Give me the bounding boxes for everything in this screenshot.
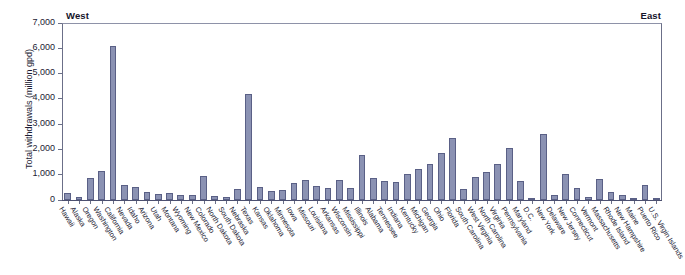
x-axis-tick-mark bbox=[520, 201, 521, 204]
y-axis-tick-label: 1,000 bbox=[32, 168, 55, 178]
annotation-east: East bbox=[641, 10, 661, 21]
x-axis-tick-mark bbox=[249, 201, 250, 204]
x-axis-tick-mark bbox=[396, 201, 397, 204]
x-axis-tick-mark bbox=[362, 201, 363, 204]
bar bbox=[76, 197, 83, 200]
x-axis-tick-mark bbox=[475, 201, 476, 204]
x-axis-tick-mark bbox=[283, 201, 284, 204]
bar bbox=[585, 197, 592, 200]
bar bbox=[144, 192, 151, 200]
x-axis-tick-mark bbox=[305, 201, 306, 204]
bar bbox=[494, 164, 501, 200]
y-axis-tick-label: 7,000 bbox=[32, 17, 55, 27]
bar bbox=[291, 183, 298, 200]
bar bbox=[313, 186, 320, 200]
y-axis-tick-label: 6,000 bbox=[32, 42, 55, 52]
x-axis-tick-mark bbox=[385, 201, 386, 204]
x-axis-tick-mark bbox=[419, 201, 420, 204]
bar bbox=[404, 174, 411, 200]
bar bbox=[381, 181, 388, 200]
bar bbox=[574, 188, 581, 200]
bar bbox=[189, 195, 196, 200]
x-axis-tick-mark bbox=[373, 201, 374, 204]
bar bbox=[302, 180, 309, 200]
bar bbox=[223, 197, 230, 200]
x-axis-tick-mark bbox=[351, 201, 352, 204]
x-axis-tick-mark bbox=[136, 201, 137, 204]
x-axis-tick-mark bbox=[328, 201, 329, 204]
bar bbox=[234, 189, 241, 200]
bar bbox=[211, 196, 218, 200]
bar bbox=[562, 174, 569, 200]
annotation-west: West bbox=[66, 10, 89, 21]
x-axis-tick-mark bbox=[124, 201, 125, 204]
bar bbox=[551, 195, 558, 200]
bar bbox=[370, 178, 377, 201]
bar bbox=[608, 192, 615, 200]
x-axis-tick-mark bbox=[271, 201, 272, 204]
x-axis-tick-mark bbox=[543, 201, 544, 204]
bar bbox=[245, 94, 252, 200]
x-axis-tick-mark bbox=[181, 201, 182, 204]
bar bbox=[540, 134, 547, 200]
bar bbox=[257, 187, 264, 200]
bar bbox=[121, 185, 128, 200]
x-axis-tick-mark bbox=[611, 201, 612, 204]
bar bbox=[528, 198, 535, 200]
bar bbox=[87, 178, 94, 200]
bar bbox=[506, 148, 513, 200]
bar bbox=[279, 190, 286, 200]
x-axis-tick-mark bbox=[645, 201, 646, 204]
x-axis-tick-mark bbox=[113, 201, 114, 204]
bar bbox=[200, 176, 207, 200]
y-axis-tick-label: 3,000 bbox=[32, 118, 55, 128]
x-axis-tick-mark bbox=[577, 201, 578, 204]
x-axis-tick-mark bbox=[90, 201, 91, 204]
bar bbox=[359, 155, 366, 200]
x-axis-tick-mark bbox=[441, 201, 442, 204]
x-axis-tick-mark bbox=[215, 201, 216, 204]
x-axis-tick-mark bbox=[600, 201, 601, 204]
bar bbox=[336, 180, 343, 200]
x-axis-tick-mark bbox=[79, 201, 80, 204]
x-axis-tick-mark bbox=[532, 201, 533, 204]
bar bbox=[166, 193, 173, 200]
x-axis-tick-mark bbox=[588, 201, 589, 204]
bar bbox=[325, 188, 332, 200]
x-axis-tick-mark bbox=[147, 201, 148, 204]
bar bbox=[460, 189, 467, 200]
bar bbox=[98, 171, 105, 200]
bar bbox=[630, 198, 637, 200]
x-axis-tick-mark bbox=[158, 201, 159, 204]
x-axis-tick-mark bbox=[192, 201, 193, 204]
x-axis-tick-mark bbox=[509, 201, 510, 204]
x-axis-tick-mark bbox=[339, 201, 340, 204]
x-axis-tick-mark bbox=[554, 201, 555, 204]
bar bbox=[415, 169, 422, 200]
bar bbox=[155, 194, 162, 200]
x-axis-tick-mark bbox=[170, 201, 171, 204]
x-axis-ticks: HawaiiAlaskaOregonWashingtonCaliforniaNe… bbox=[62, 201, 662, 275]
y-axis-tick-label: 2,000 bbox=[32, 143, 55, 153]
x-axis-tick-mark bbox=[498, 201, 499, 204]
x-axis-tick-mark bbox=[204, 201, 205, 204]
bar bbox=[653, 198, 660, 200]
x-axis-tick-mark bbox=[430, 201, 431, 204]
y-axis-ticks: 01,0002,0003,0004,0005,0006,0007,000 bbox=[0, 0, 62, 275]
x-axis-tick-mark bbox=[464, 201, 465, 204]
x-axis-tick-mark bbox=[487, 201, 488, 204]
x-axis-tick-mark bbox=[294, 201, 295, 204]
bar bbox=[268, 191, 275, 200]
x-axis-tick-mark bbox=[226, 201, 227, 204]
bar bbox=[517, 181, 524, 200]
x-axis-tick-mark bbox=[407, 201, 408, 204]
bar bbox=[642, 185, 649, 200]
bar bbox=[596, 179, 603, 200]
x-axis-tick-mark bbox=[260, 201, 261, 204]
x-axis-tick-mark bbox=[622, 201, 623, 204]
bar bbox=[347, 188, 354, 200]
x-axis-tick-mark bbox=[566, 201, 567, 204]
bar bbox=[449, 138, 456, 200]
bar bbox=[132, 187, 139, 200]
